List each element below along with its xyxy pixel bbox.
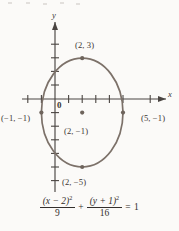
- fraction-first-denominator: 9: [55, 208, 60, 219]
- point-label-center: (2, −1): [64, 127, 88, 136]
- fraction-second: (y + 1)2 16: [87, 196, 122, 219]
- point-covertex-right: [121, 111, 125, 115]
- x-axis-label: x: [168, 90, 172, 99]
- fraction-second-denominator: 16: [100, 208, 110, 219]
- fraction-second-numerator-base: (y + 1): [90, 196, 116, 206]
- x-axis-arrowhead: [158, 96, 166, 102]
- fraction-second-numerator: (y + 1)2: [87, 196, 122, 208]
- fraction-first: (x − 2)2 9: [40, 196, 75, 219]
- y-axis-label: y: [52, 11, 56, 20]
- ellipse-equation: (x − 2)2 9 + (y + 1)2 16 = 1: [0, 196, 179, 219]
- equation-plus-operator: +: [77, 202, 84, 212]
- equation-equals-sign: =: [124, 202, 131, 212]
- point-label-top: (2, 3): [75, 41, 94, 50]
- point-label-right: (5, −1): [141, 114, 165, 123]
- point-vertex-bottom: [80, 165, 84, 169]
- fraction-first-numerator-base: (x − 2): [43, 196, 69, 206]
- fraction-first-numerator: (x − 2)2: [40, 196, 75, 208]
- point-covertex-left: [39, 111, 43, 115]
- equation-row: (x − 2)2 9 + (y + 1)2 16 = 1: [40, 196, 139, 219]
- equation-right-hand-side: 1: [134, 202, 139, 212]
- origin-label: 0: [57, 101, 62, 110]
- ellipse-figure: (2, 3) (−1, −1) (5, −1) (2, −1) (2, −5) …: [0, 0, 179, 231]
- point-vertex-top: [80, 56, 84, 60]
- fraction-second-numerator-exponent: 2: [116, 194, 119, 201]
- point-center: [80, 111, 84, 115]
- fraction-first-numerator-exponent: 2: [69, 194, 72, 201]
- point-label-bottom: (2, −5): [62, 178, 86, 187]
- point-label-left: (−1, −1): [1, 114, 30, 123]
- y-axis-arrowhead: [52, 22, 58, 30]
